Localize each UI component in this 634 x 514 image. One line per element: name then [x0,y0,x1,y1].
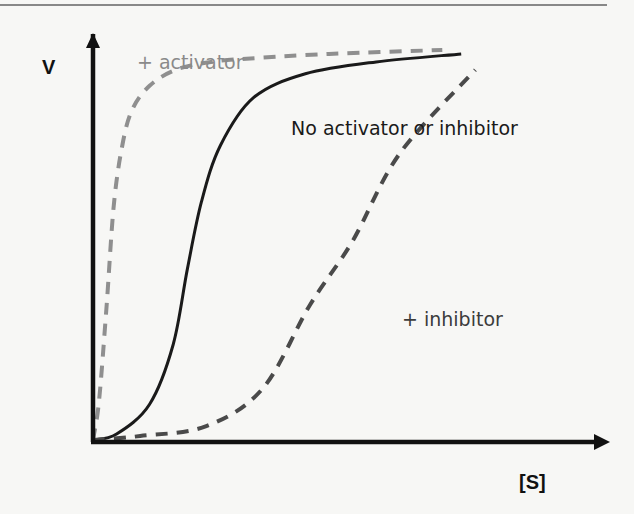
inhibitor-annotation: + inhibitor [402,308,503,330]
y-axis-label: V [42,56,56,78]
y-axis-arrowhead [86,33,100,48]
normal-annotation: No activator or inhibitor [291,117,518,139]
x-axis-arrowhead [594,434,610,450]
enzyme-kinetics-chart: V [S] + activator No activator or inhibi… [0,0,634,514]
x-axis-label: [S] [519,471,546,493]
normal-curve [93,54,461,440]
activator-annotation: + activator [137,51,244,73]
series-group [93,50,475,440]
